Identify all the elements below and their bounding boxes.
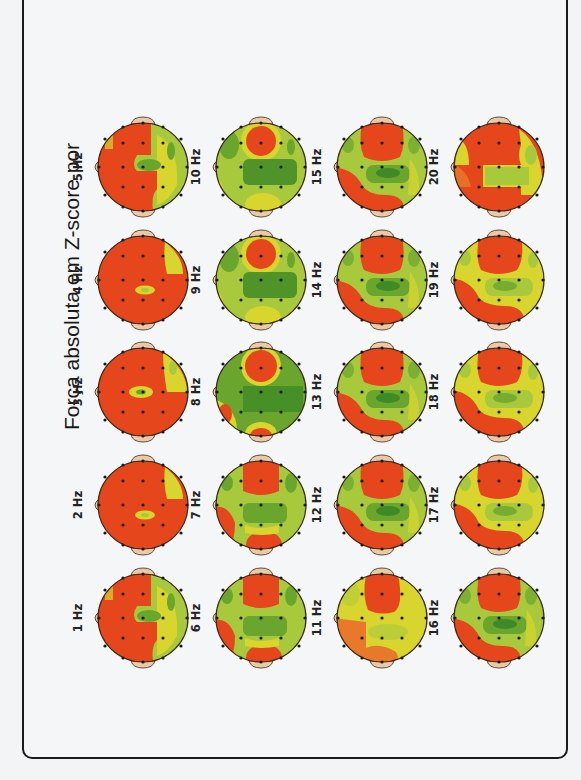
topomap-9hz: [209, 228, 313, 332]
head-topomap: [447, 340, 551, 444]
frequency-label: 10 Hz: [189, 142, 203, 192]
topomap-20hz: [447, 115, 551, 219]
head-topomap: [209, 566, 313, 670]
topomap-15hz: [330, 115, 434, 219]
head-topomap: [447, 115, 551, 219]
frequency-label: 1 Hz: [71, 593, 85, 643]
frequency-label: 13 Hz: [310, 367, 324, 417]
topomap-6hz: [209, 566, 313, 670]
head-topomap: [209, 115, 313, 219]
topomap-2hz: [91, 453, 195, 557]
topomap-19hz: [447, 228, 551, 332]
head-topomap: [330, 566, 434, 670]
frequency-label: 3 Hz: [71, 367, 85, 417]
head-topomap: [91, 228, 195, 332]
head-topomap: [330, 228, 434, 332]
topomap-17hz: [447, 453, 551, 557]
head-topomap: [91, 566, 195, 670]
head-topomap: [91, 453, 195, 557]
head-topomap: [447, 228, 551, 332]
topomap-7hz: [209, 453, 313, 557]
topomap-16hz: [447, 566, 551, 670]
frequency-label: 14 Hz: [310, 255, 324, 305]
topomap-1hz: [91, 566, 195, 670]
head-topomap: [330, 115, 434, 219]
frequency-label: 9 Hz: [189, 255, 203, 305]
head-topomap: [447, 453, 551, 557]
head-topomap: [91, 340, 195, 444]
frequency-label: 5 Hz: [71, 142, 85, 192]
topomap-11hz: [330, 566, 434, 670]
topomap-14hz: [330, 228, 434, 332]
topomap-5hz: [91, 115, 195, 219]
frequency-label: 16 Hz: [427, 593, 441, 643]
frequency-label: 17 Hz: [427, 480, 441, 530]
frequency-label: 2 Hz: [71, 480, 85, 530]
topomap-3hz: [91, 340, 195, 444]
frequency-label: 11 Hz: [310, 593, 324, 643]
topomap-13hz: [330, 340, 434, 444]
topomap-4hz: [91, 228, 195, 332]
topomap-8hz: [209, 340, 313, 444]
topomap-10hz: [209, 115, 313, 219]
frequency-label: 4 Hz: [71, 255, 85, 305]
head-topomap: [447, 566, 551, 670]
frequency-label: 7 Hz: [189, 480, 203, 530]
topomap-18hz: [447, 340, 551, 444]
frequency-label: 12 Hz: [310, 480, 324, 530]
head-topomap: [91, 115, 195, 219]
head-topomap: [209, 453, 313, 557]
head-topomap: [330, 453, 434, 557]
frequency-label: 6 Hz: [189, 593, 203, 643]
frequency-label: 15 Hz: [310, 142, 324, 192]
head-topomap: [209, 340, 313, 444]
head-topomap: [209, 228, 313, 332]
frequency-label: 8 Hz: [189, 367, 203, 417]
topomap-12hz: [330, 453, 434, 557]
head-topomap: [330, 340, 434, 444]
frequency-label: 19 Hz: [427, 255, 441, 305]
frequency-label: 18 Hz: [427, 367, 441, 417]
frequency-label: 20 Hz: [427, 142, 441, 192]
